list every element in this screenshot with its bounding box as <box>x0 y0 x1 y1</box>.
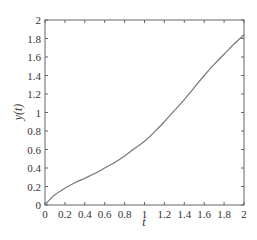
x-tick-label: 0.6 <box>98 208 112 220</box>
plot-frame <box>45 20 244 205</box>
y-tick-label: 1.6 <box>27 51 41 63</box>
y-tick-label: 0.6 <box>27 144 41 156</box>
y-tick-label: 1 <box>36 107 42 119</box>
x-tick-label: 1.6 <box>197 208 211 220</box>
x-tick-label: 0.2 <box>58 208 72 220</box>
x-tick-label: 0.4 <box>78 208 92 220</box>
y-tick-label: 0.2 <box>27 181 41 193</box>
y-tick-label: 0.8 <box>27 125 41 137</box>
x-tick-label: 0 <box>42 208 48 220</box>
plot-border <box>45 20 244 205</box>
y-tick-label: 1.8 <box>27 33 41 45</box>
y-tick-label: 0 <box>36 199 42 211</box>
y-tick-label: 2 <box>36 14 42 26</box>
y-tick-label: 1.4 <box>27 70 41 82</box>
x-tick-label: 1.8 <box>217 208 231 220</box>
x-tick-label: 0.8 <box>118 208 132 220</box>
y-tick-label: 0.4 <box>27 162 41 174</box>
y-tick-label: 1.2 <box>27 88 41 100</box>
y-tick-labels: 00.20.40.60.811.21.41.61.82 <box>27 14 41 211</box>
line-chart: 00.20.40.60.811.21.41.61.82 00.20.40.60.… <box>0 0 257 240</box>
x-tick-label: 1.4 <box>177 208 191 220</box>
y-axis-label: y(t) <box>11 104 25 122</box>
x-tick-label: 1.2 <box>158 208 172 220</box>
data-line-y-of-t <box>45 35 244 205</box>
x-tick-label: 2 <box>241 208 247 220</box>
axis-ticks <box>45 20 244 205</box>
